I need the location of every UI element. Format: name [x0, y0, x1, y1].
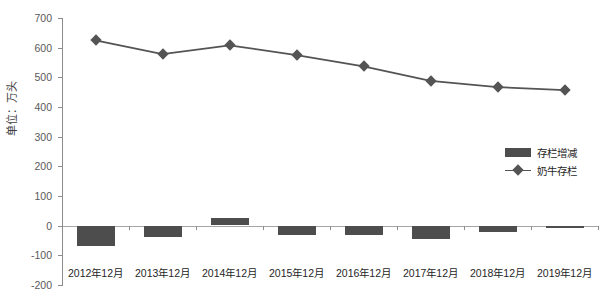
line-path — [96, 40, 565, 90]
chart-container: 单位：万头 7006005004003002001000-100-200 201… — [0, 0, 606, 300]
chart-legend: 存栏增减 奶牛存栏 — [505, 143, 577, 179]
legend-item-label: 奶牛存栏 — [537, 163, 577, 178]
diamond-marker-icon — [512, 164, 523, 175]
legend-item-line[interactable]: 奶牛存栏 — [505, 161, 577, 179]
bar-swatch-icon — [505, 148, 531, 157]
legend-item-bar[interactable]: 存栏增减 — [505, 143, 577, 161]
diamond-line-icon — [505, 166, 531, 175]
legend-item-label: 存栏增减 — [537, 145, 577, 160]
